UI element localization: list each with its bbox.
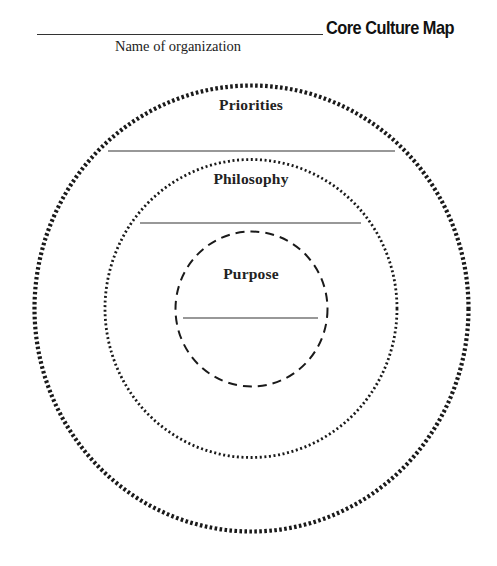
core-culture-diagram: [0, 0, 497, 566]
priorities-ring: [35, 86, 469, 532]
priorities-label: Priorities: [191, 96, 311, 114]
purpose-label: Purpose: [191, 265, 311, 283]
philosophy-label: Philosophy: [191, 170, 311, 188]
philosophy-ring: [105, 160, 397, 458]
purpose-ring: [176, 232, 328, 387]
